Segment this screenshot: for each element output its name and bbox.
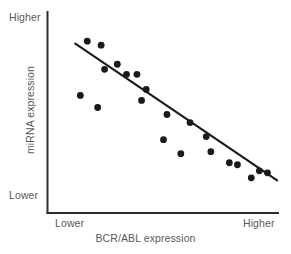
x-axis-tick-lower: Lower — [55, 217, 84, 229]
scatter-point — [143, 86, 150, 93]
scatter-point — [101, 66, 108, 73]
scatter-point — [187, 119, 194, 126]
scatter-point — [234, 161, 241, 168]
x-axis-title: BCR/ABL expression — [0, 232, 291, 244]
scatter-point — [264, 169, 271, 176]
scatter-point — [203, 133, 210, 140]
scatter-point — [94, 104, 101, 111]
y-axis-tick-lower: Lower — [9, 189, 38, 201]
trend-line — [75, 43, 278, 181]
scatter-point — [207, 148, 214, 155]
scatter-point — [248, 174, 255, 181]
scatter-point — [84, 38, 91, 45]
scatter-point — [160, 136, 167, 143]
scatter-point — [164, 111, 171, 118]
y-axis-tick-higher: Higher — [9, 11, 41, 23]
scatter-point — [226, 159, 233, 166]
scatter-point — [134, 71, 141, 78]
scatter-plot-figure: Higher Lower Lower Higher BCR/ABL expres… — [0, 0, 291, 254]
scatter-point — [98, 42, 105, 49]
regression-line — [75, 43, 278, 181]
scatter-point — [177, 150, 184, 157]
scatter-point — [138, 97, 145, 104]
scatter-point — [123, 71, 130, 78]
plot-canvas — [0, 0, 291, 254]
x-axis-tick-higher: Higher — [243, 217, 275, 229]
scatter-point — [77, 92, 84, 99]
y-axis-title: miRNA expression — [24, 35, 36, 185]
scatter-point — [114, 61, 121, 68]
scatter-point — [256, 167, 263, 174]
axis-lines — [47, 11, 280, 214]
